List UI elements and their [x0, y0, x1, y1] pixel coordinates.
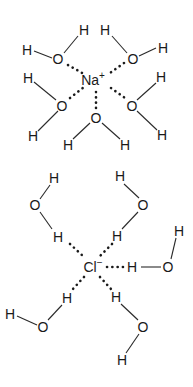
hydrogen-atom: H — [49, 170, 59, 186]
sodium-ion-label: Na+ — [81, 70, 105, 89]
chloride-ion-label: Cl− — [83, 257, 102, 276]
oxygen-atom: O — [38, 319, 49, 335]
hydrogen-atom: H — [157, 127, 167, 143]
hydrogen-atom: H — [112, 228, 122, 244]
hydrogen-atom: H — [63, 137, 73, 153]
hydrogen-atom: H — [62, 290, 72, 306]
oxygen-atom: O — [138, 197, 149, 213]
chloride-hydration: Cl− H O H H O H H O H H O H H O H — [5, 168, 184, 368]
hydrogen-atom: H — [158, 40, 168, 56]
oxygen-atom: O — [138, 319, 149, 335]
hydrogen-atom: H — [23, 70, 33, 86]
hydrogen-atom: H — [111, 289, 121, 305]
hydrogen-atom: H — [117, 352, 127, 368]
hydrogen-atom: H — [28, 128, 38, 144]
hydrogen-atom: H — [115, 168, 125, 184]
oxygen-atom: O — [53, 51, 64, 67]
oxygen-atom: O — [127, 98, 138, 114]
hydrogen-atom: H — [156, 69, 166, 85]
oxygen-atom: O — [163, 259, 174, 275]
hydrogen-atom: H — [120, 137, 130, 153]
oxygen-atom: O — [91, 110, 102, 126]
hydrogen-atom: H — [79, 22, 89, 38]
oxygen-atom: O — [30, 197, 41, 213]
oxygen-atom: O — [128, 51, 139, 67]
oxygen-atom: O — [57, 98, 68, 114]
hydrogen-atom: H — [100, 22, 110, 38]
sodium-hydration: Na+ H O H H O H H O H H O H O H H — [22, 22, 168, 153]
hydrogen-atom: H — [5, 306, 15, 322]
hydrogen-atom: H — [22, 42, 32, 58]
hydration-diagram: Na+ H O H H O H H O H H O H O H H — [0, 0, 193, 387]
hydrogen-atom: H — [174, 223, 184, 239]
hydrogen-atom: H — [127, 259, 137, 275]
hydrogen-atom: H — [53, 229, 63, 245]
